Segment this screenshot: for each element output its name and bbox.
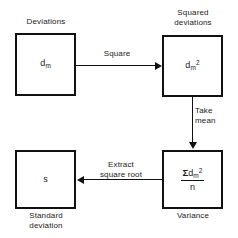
flowchart-diagram: Deviations Squared deviations Variance S… [0, 0, 238, 238]
numerator-superscript-variance: 2 [199, 167, 203, 174]
symbol-subscript-deviations: m [45, 62, 50, 69]
node-symbol-squared-deviations: dm2 [185, 60, 199, 72]
connector-line-take-mean [192, 97, 193, 143]
node-caption-variance: Variance [155, 211, 231, 221]
node-caption-deviations: Deviations [6, 17, 86, 27]
connector-label-take-mean: Take mean [195, 106, 237, 126]
fraction-denominator-variance: n [181, 181, 205, 192]
symbol-superscript-squared-deviations: 2 [196, 59, 200, 66]
fraction-numerator-variance: Σdm2 [181, 167, 205, 181]
arrowhead-right-icon [155, 62, 162, 70]
node-box-deviations: dm [15, 33, 76, 96]
node-box-squared-deviations: dm2 [162, 35, 223, 97]
node-box-variance: Σdm2 n [162, 150, 223, 209]
connector-label-extract-square-root: Extract square root [83, 160, 159, 181]
node-caption-standard-deviation: Standard deviation [6, 211, 86, 231]
node-symbol-deviations: dm [40, 59, 51, 70]
arrowhead-down-icon [189, 142, 197, 149]
connector-line-square [76, 65, 156, 66]
node-symbol-standard-deviation: s [43, 175, 48, 184]
node-caption-squared-deviations: Squared deviations [155, 8, 231, 28]
connector-label-square: Square [86, 49, 148, 58]
node-symbol-variance: Σdm2 n [181, 167, 205, 193]
symbol-base-standard-deviation: s [43, 174, 48, 184]
node-box-standard-deviation: s [15, 150, 76, 209]
